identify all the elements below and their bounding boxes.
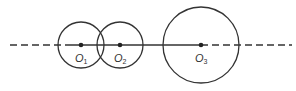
center-point-o2	[118, 43, 123, 48]
label-o3: O3	[195, 52, 208, 65]
center-point-o1	[79, 43, 84, 48]
label-o1: O1	[75, 52, 88, 65]
circles-diagram: O1 O2 O3	[0, 0, 296, 91]
center-point-o3	[199, 43, 204, 48]
diagram-canvas: O1 O2 O3	[0, 0, 296, 91]
label-o2: O2	[114, 52, 127, 65]
